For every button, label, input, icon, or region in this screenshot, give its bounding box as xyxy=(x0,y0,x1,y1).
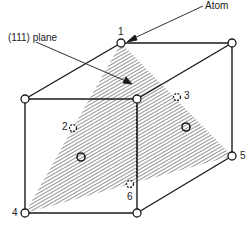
label-1: 1 xyxy=(118,27,124,37)
atom-arrow xyxy=(130,6,203,40)
label-2: 2 xyxy=(62,122,68,132)
atom-3 xyxy=(174,94,181,101)
atom-4 xyxy=(21,209,29,217)
atom-5 xyxy=(228,152,236,160)
label-4: 4 xyxy=(12,208,18,218)
atom-label: Atom xyxy=(205,1,228,11)
atom-corner-back-top-right xyxy=(228,39,236,47)
atom-corner-front-bottom-right xyxy=(133,209,141,217)
plane-label: (111) plane xyxy=(8,33,57,43)
atom-corner-front-top-right xyxy=(133,95,141,103)
label-3: 3 xyxy=(184,91,190,101)
atom-2 xyxy=(70,125,77,132)
atom-corner-front-top-left xyxy=(21,95,29,103)
atom-6 xyxy=(127,181,134,188)
label-6: 6 xyxy=(127,192,133,202)
atom-arrow-head xyxy=(127,35,137,42)
label-5: 5 xyxy=(240,151,246,161)
atom-1 xyxy=(117,39,125,47)
